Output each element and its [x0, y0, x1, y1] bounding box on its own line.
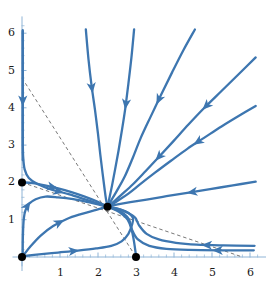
x-tick-label: 3 — [133, 267, 140, 278]
traj-diag-45 — [108, 29, 195, 206]
steep-nullcline — [22, 78, 136, 257]
trajectory-layer — [18, 29, 256, 256]
equilibrium-point-x-axis-fixed-point — [132, 253, 140, 261]
traj-y-axis-down — [23, 31, 108, 206]
traj-y-axis-up-from-origin — [23, 196, 108, 256]
x-tick-label: 1 — [57, 267, 64, 278]
flow-arrowhead — [53, 216, 67, 229]
x-tick-label: 5 — [209, 267, 216, 278]
equilibrium-point-y-axis-fixed-point — [18, 178, 26, 186]
flow-arrowhead — [152, 93, 165, 107]
traj-diag-low — [108, 106, 256, 207]
phase-portrait-svg — [0, 0, 266, 284]
x-tick-label: 6 — [247, 267, 254, 278]
y-tick-label: 4 — [8, 102, 15, 113]
y-tick-label: 5 — [8, 65, 15, 76]
y-tick-label: 2 — [8, 176, 15, 187]
equilibrium-point-interior-stable-node — [104, 203, 112, 211]
x-tick-label: 2 — [95, 267, 102, 278]
equilibria-layer — [18, 178, 140, 261]
flow-arrowhead — [191, 135, 205, 149]
y-tick-label: 6 — [8, 27, 15, 38]
phase-portrait-figure: 123456123456 — [0, 0, 266, 284]
y-tick-label: 1 — [8, 214, 15, 225]
y-tick-label: 3 — [8, 139, 15, 150]
traj-diag-steep — [108, 29, 135, 206]
x-tick-label: 4 — [171, 267, 178, 278]
traj-near-horizontal-right — [108, 182, 256, 207]
equilibrium-point-origin — [18, 253, 26, 261]
traj-steep-upper — [86, 29, 108, 206]
